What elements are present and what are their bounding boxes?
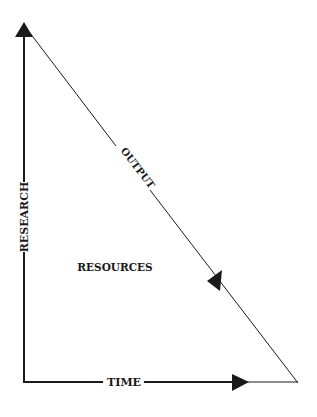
time-label: TIME bbox=[107, 376, 141, 389]
output-arrowhead-icon bbox=[207, 270, 222, 291]
resources-label: RESOURCES bbox=[77, 261, 152, 273]
research-time-output-diagram: RESEARCH TIME OUTPUT RESOURCES bbox=[0, 0, 317, 417]
output-line: OUTPUT bbox=[30, 33, 298, 383]
time-axis: TIME bbox=[23, 374, 298, 391]
research-axis: RESEARCH bbox=[15, 22, 33, 383]
research-label: RESEARCH bbox=[18, 182, 31, 253]
research-arrowhead-icon bbox=[15, 22, 33, 37]
output-label: OUTPUT bbox=[119, 145, 158, 191]
time-arrowhead-icon bbox=[232, 374, 249, 391]
